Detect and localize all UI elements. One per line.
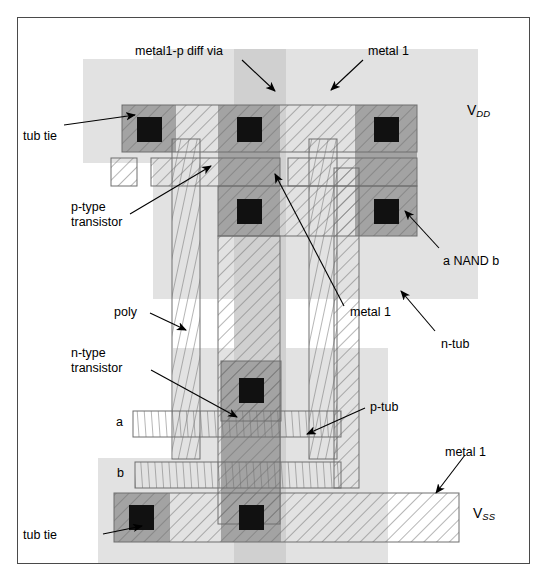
label-vss-v: V [473,505,482,521]
label-tub-tie-bottom: tub tie [23,529,57,543]
label-vdd-sub: DD [476,108,490,119]
label-n-type-line1: n-type [71,346,106,360]
leader-metal-1-bottom [436,455,465,493]
n-tub-region-main [153,49,478,299]
label-n-tub: n-tub [441,338,470,352]
n-diffusion-mid [221,361,281,421]
label-vss: VSS [473,507,495,524]
p-diffusion-channel-column-right [355,152,417,186]
figure-canvas: metal1-p diff via metal 1 tub tie p-type… [0,0,549,584]
p-diffusion-upper-bar [218,105,280,152]
label-metal1-p-diff-via: metal1-p diff via [135,45,223,59]
label-p-type-transistor: p-type transistor [71,200,122,230]
label-n-type-transistor: n-type transistor [71,346,122,376]
leader-poly [150,313,186,330]
label-p-tub: p-tub [370,401,399,415]
n-diffusion-bottom-mid [221,493,281,542]
label-vdd: VDD [467,104,490,121]
figure-frame: metal1-p diff via metal 1 tub tie p-type… [17,17,530,564]
label-metal-1-mid: metal 1 [350,306,391,320]
label-n-type-line2: transistor [71,361,122,375]
n-diffusion-column [221,421,281,493]
p-diffusion-lower-right [355,186,417,236]
label-vdd-v: V [467,102,476,118]
p-diffusion-channel-column-left [218,152,280,186]
label-p-type-line1: p-type [71,200,106,214]
label-metal-1-bottom: metal 1 [445,446,486,460]
p-diffusion-upper-right [355,105,417,152]
p-diffusion-lower-bar [218,186,280,236]
label-input-a: a [116,416,123,430]
label-metal-1-top: metal 1 [368,45,409,59]
label-tub-tie-top: tub tie [23,130,57,144]
label-poly: poly [114,306,137,320]
label-vss-sub: SS [482,511,495,522]
label-input-b: b [117,467,124,481]
n-diffusion-bottom-left [114,493,170,542]
p-diffusion-upper-left [122,105,176,152]
label-p-type-line2: transistor [71,215,122,229]
label-a-nand-b: a NAND b [443,255,499,269]
